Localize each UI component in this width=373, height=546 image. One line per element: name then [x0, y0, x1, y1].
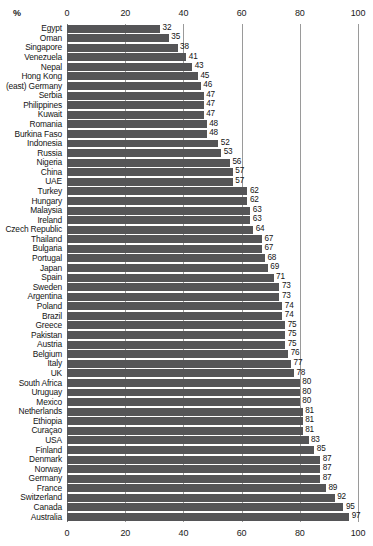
category-label: Burkina Faso [14, 129, 62, 139]
category-label: Argentina [27, 291, 62, 301]
category-label: Ethiopia [33, 416, 62, 426]
category-label: Hungary [31, 196, 62, 206]
category-label: UK [51, 368, 62, 378]
x-tick-bottom-40: 40 [179, 528, 189, 538]
category-label: Sweden [33, 282, 62, 292]
category-label: Spain [41, 272, 62, 282]
category-label: Australia [31, 512, 62, 522]
category-label: Norway [35, 464, 63, 474]
category-label: Belgium [33, 349, 62, 359]
category-label: Singapore [25, 42, 62, 52]
category-label: Netherlands [18, 406, 62, 416]
category-label: Greece [35, 320, 62, 330]
x-tick-top-0: 0 [65, 8, 70, 18]
category-label: Russia [37, 148, 62, 158]
category-label: Switzerland [20, 492, 62, 502]
x-tick-top-60: 60 [237, 8, 247, 18]
category-label: Philippines [23, 100, 62, 110]
category-labels: EgyptOmanSingaporeVenezuelaNepalHong Kon… [0, 24, 373, 522]
x-tick-top-80: 80 [295, 8, 305, 18]
category-label: Hong Kong [21, 71, 62, 81]
category-label: Egypt [41, 23, 62, 33]
category-label: (east) Germany [6, 81, 62, 91]
category-label: Denmark [29, 454, 62, 464]
category-label: Malaysia [30, 205, 62, 215]
category-label: South Africa [19, 378, 62, 388]
category-label: Czech Republic [5, 224, 62, 234]
category-label: Brazil [42, 311, 62, 321]
category-label: Uruguay [31, 387, 62, 397]
x-tick-top-100: 100 [351, 8, 365, 18]
category-label: Mexico [36, 397, 62, 407]
category-label: Canada [34, 502, 62, 512]
category-label: Oman [40, 33, 62, 43]
x-tick-bottom-20: 20 [120, 528, 130, 538]
x-tick-bottom-60: 60 [237, 528, 247, 538]
category-label: Poland [37, 301, 62, 311]
category-label: Nigeria [37, 157, 62, 167]
category-label: Venezuela [24, 52, 62, 62]
category-label: Japan [40, 263, 62, 273]
axis-unit-label: % [13, 8, 21, 18]
category-label: Ireland [37, 215, 62, 225]
category-label: Romania [30, 119, 62, 129]
x-tick-bottom-100: 100 [351, 528, 365, 538]
category-label: UAE [45, 176, 62, 186]
category-label: Indonesia [27, 138, 62, 148]
category-label: Finland [36, 445, 62, 455]
category-label: Turkey [38, 186, 62, 196]
category-label: Curaçao [31, 425, 62, 435]
bar-chart: % 020406080100 020406080100 323538414345… [0, 0, 373, 546]
category-label: Bulgaria [32, 243, 62, 253]
category-label: Italy [47, 358, 62, 368]
category-label: China [41, 167, 62, 177]
x-tick-top-40: 40 [179, 8, 189, 18]
x-tick-bottom-0: 0 [65, 528, 70, 538]
category-label: Portugal [32, 253, 62, 263]
category-label: Austria [37, 339, 62, 349]
category-label: Germany [29, 473, 62, 483]
category-label: Nepal [41, 62, 62, 72]
category-label: Kuwait [38, 109, 62, 119]
category-label: Thailand [31, 234, 62, 244]
category-label: USA [45, 435, 62, 445]
x-tick-top-20: 20 [120, 8, 130, 18]
x-tick-bottom-80: 80 [295, 528, 305, 538]
category-label: Pakistan [31, 330, 62, 340]
category-label: France [37, 483, 62, 493]
category-label: Serbia [39, 90, 62, 100]
